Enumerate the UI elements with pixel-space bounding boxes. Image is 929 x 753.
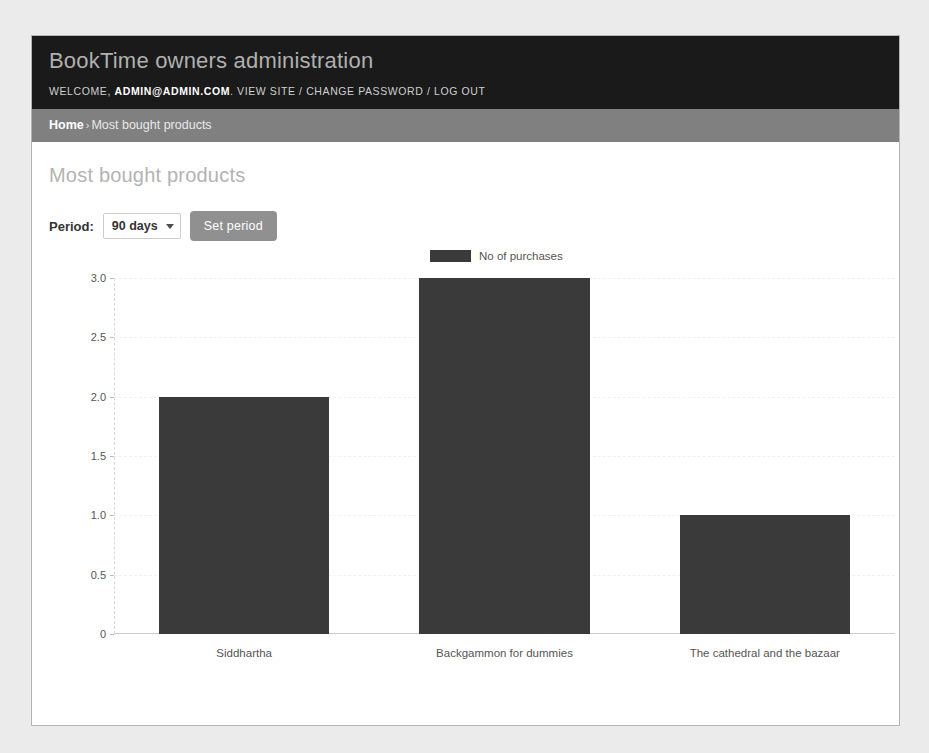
tools-divider-1: / xyxy=(299,85,303,97)
breadcrumb: Home›Most bought products xyxy=(32,109,899,142)
y-axis-tick-mark xyxy=(110,634,114,635)
y-axis-tick-label: 0 xyxy=(54,628,106,640)
breadcrumb-separator-icon: › xyxy=(86,119,90,131)
y-axis-tick-mark xyxy=(110,337,114,338)
period-select[interactable]: 90 days xyxy=(103,213,181,239)
user-tools-bar: WELCOME, ADMIN@ADMIN.COM. VIEW SITE / CH… xyxy=(49,85,486,97)
y-axis-tick-mark xyxy=(110,278,114,279)
chart-plot-area: 00.51.01.52.02.53.0 SiddharthaBackgammon… xyxy=(114,278,895,634)
chart-bar xyxy=(419,278,590,634)
view-site-link[interactable]: VIEW SITE xyxy=(237,85,296,97)
x-axis-tick-label: Backgammon for dummies xyxy=(436,647,573,659)
main-content: Most bought products Period: 90 days Set… xyxy=(32,142,899,662)
period-filter-form: Period: 90 days Set period xyxy=(32,187,899,241)
tools-divider-2: / xyxy=(427,85,431,97)
x-axis-tick-label: The cathedral and the bazaar xyxy=(690,647,840,659)
change-password-link[interactable]: CHANGE PASSWORD xyxy=(306,85,423,97)
chart-bar xyxy=(159,397,330,634)
period-label: Period: xyxy=(49,219,94,234)
breadcrumb-current: Most bought products xyxy=(91,118,211,132)
chart-legend: No of purchases xyxy=(430,250,563,262)
y-axis-tick-mark xyxy=(110,575,114,576)
x-axis-tick-label: Siddhartha xyxy=(216,647,272,659)
user-email-label: ADMIN@ADMIN.COM xyxy=(115,85,230,97)
legend-label: No of purchases xyxy=(479,250,563,262)
page-title: Most bought products xyxy=(32,142,899,187)
site-header: BookTime owners administration WELCOME, … xyxy=(32,36,899,109)
y-axis-tick-label: 1.5 xyxy=(54,450,106,462)
breadcrumb-home-link[interactable]: Home xyxy=(49,118,84,132)
y-axis-tick-label: 2.5 xyxy=(54,331,106,343)
period-select-wrapper: 90 days xyxy=(103,213,181,239)
y-axis-tick-label: 1.0 xyxy=(54,509,106,521)
y-axis-tick-mark xyxy=(110,515,114,516)
log-out-link[interactable]: LOG OUT xyxy=(434,85,485,97)
y-axis-tick-mark xyxy=(110,456,114,457)
legend-swatch-icon xyxy=(430,250,471,262)
admin-page-container: BookTime owners administration WELCOME, … xyxy=(31,35,900,726)
chart-bar xyxy=(680,515,851,634)
y-axis-tick-label: 2.0 xyxy=(54,391,106,403)
set-period-button[interactable]: Set period xyxy=(190,211,277,241)
site-title: BookTime owners administration xyxy=(49,48,373,74)
y-axis-tick-label: 0.5 xyxy=(54,569,106,581)
y-axis-tick-label: 3.0 xyxy=(54,272,106,284)
most-bought-products-chart: No of purchases 00.51.01.52.02.53.0 Sidd… xyxy=(32,247,900,662)
email-period: . xyxy=(230,85,234,97)
welcome-label: WELCOME, xyxy=(49,85,111,97)
y-axis-tick-mark xyxy=(110,397,114,398)
